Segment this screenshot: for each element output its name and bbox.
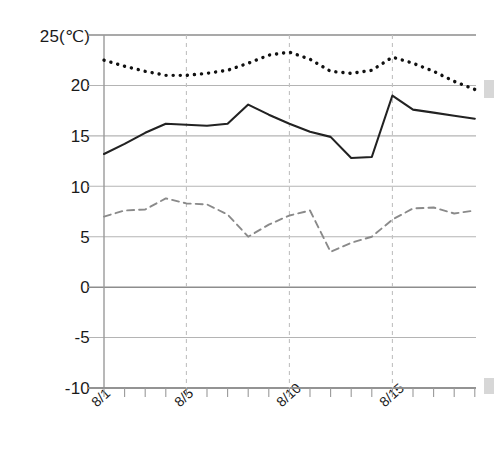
scan-artifact-upper [484,80,494,98]
scan-artifact-lower [484,378,494,394]
temperature-line-chart: 25(℃) 20 15 10 5 0 -5 -10 8/1 8/5 8/10 8… [0,0,494,466]
plot-area [0,0,494,466]
